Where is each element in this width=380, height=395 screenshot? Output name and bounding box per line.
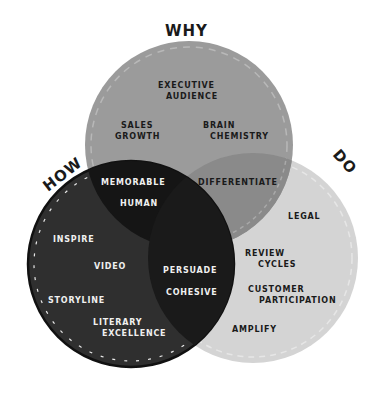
label-participation: PARTICIPATION	[259, 296, 336, 305]
label-memorable: MEMORABLE	[101, 178, 165, 187]
label-audience: AUDIENCE	[166, 92, 218, 101]
label-brain: BRAIN	[203, 121, 235, 130]
label-video: VIDEO	[94, 262, 126, 271]
label-cohesive: COHESIVE	[166, 288, 218, 297]
label-sales: SALES	[121, 121, 153, 130]
label-human: HUMAN	[120, 199, 158, 208]
label-chemistry: CHEMISTRY	[210, 132, 269, 141]
why-title: WHY	[165, 22, 208, 40]
label-persuade: PERSUADE	[163, 266, 217, 275]
label-customer: CUSTOMER	[248, 285, 304, 294]
label-growth: GROWTH	[115, 132, 160, 141]
label-inspire: INSPIRE	[53, 235, 95, 244]
label-legal: LEGAL	[288, 212, 320, 221]
label-review: REVIEW	[245, 249, 285, 258]
label-literary: LITERARY	[93, 318, 142, 327]
label-cycles: CYCLES	[258, 260, 296, 269]
label-excellence: EXCELLENCE	[102, 329, 166, 338]
label-executive: EXECUTIVE	[158, 81, 215, 90]
label-differentiate: DIFFERENTIATE	[198, 178, 278, 187]
label-amplify: AMPLIFY	[232, 325, 277, 334]
do-title: DO	[329, 146, 361, 178]
venn-diagram: WHY HOW DO EXECUTIVE AUDIENCE SALES GROW…	[0, 0, 380, 395]
label-storyline: STORYLINE	[48, 296, 105, 305]
